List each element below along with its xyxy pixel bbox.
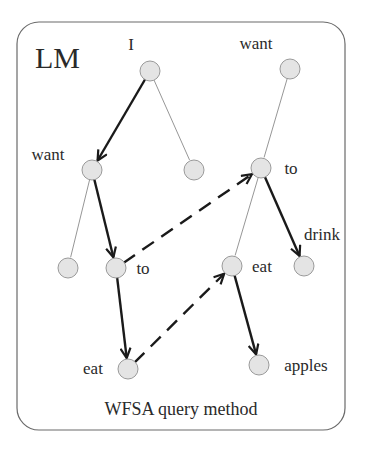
state-node-to <box>106 258 126 278</box>
node-label-want: want <box>31 145 64 164</box>
node-label-to: to <box>136 259 149 278</box>
node-label-want: want <box>239 34 272 53</box>
node-label-apples: apples <box>284 356 327 375</box>
node-label-drink: drink <box>304 225 340 244</box>
diagram-caption: WFSA query method <box>105 399 258 419</box>
state-node-unlabeled <box>184 160 204 180</box>
state-node-apples <box>249 355 269 375</box>
state-node-drink <box>294 256 314 276</box>
state-node-want <box>280 59 300 79</box>
state-node-eat <box>222 256 242 276</box>
wfsa-lm-diagram: LM Iwantwanttotoeatdrinkeatapples WFSA q… <box>0 0 366 454</box>
state-node-I <box>140 61 160 81</box>
lm-title: LM <box>35 41 80 74</box>
state-node-to <box>251 158 271 178</box>
state-node-want <box>82 160 102 180</box>
node-label-eat: eat <box>83 359 103 378</box>
node-label-eat: eat <box>252 257 272 276</box>
node-label-to: to <box>284 159 297 178</box>
node-label-I: I <box>128 35 134 54</box>
state-node-unlabeled <box>58 258 78 278</box>
state-node-eat <box>118 359 138 379</box>
